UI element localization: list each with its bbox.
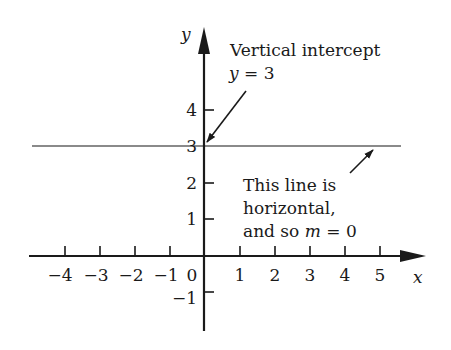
- annotation-horizontal-line2: horizontal,: [243, 198, 336, 218]
- y-tick-label: 1: [186, 209, 197, 229]
- y-axis-arrow-icon: [198, 27, 210, 54]
- x-tick-label: −1: [153, 265, 178, 285]
- y-tick-label: 3: [186, 136, 197, 156]
- y-ticks: [204, 110, 214, 292]
- x-tick-label: −4: [47, 265, 72, 285]
- x-tick-label: −2: [118, 265, 143, 285]
- x-axis-label: x: [413, 267, 423, 287]
- y-axis-label: y: [180, 24, 191, 44]
- arrow-to-intercept-icon: [207, 91, 246, 142]
- annotation-horizontal-line3: and so m = 0: [243, 221, 357, 241]
- y-tick-label: −1: [172, 288, 197, 308]
- x-tick-labels: −4 −3 −2 −1 0 1 2 3 4 5: [47, 265, 385, 285]
- y-tick-label: 2: [186, 173, 197, 193]
- x-tick-label: 3: [305, 265, 316, 285]
- x-tick-label: −3: [83, 265, 108, 285]
- annotation-vertical-intercept-line2: y = 3: [228, 63, 274, 83]
- graph: −4 −3 −2 −1 0 1 2 3 4 5 4 3 2 1 −1 y x V…: [0, 0, 451, 350]
- x-tick-label: 4: [340, 265, 351, 285]
- x-tick-label: 2: [270, 265, 281, 285]
- x-axis-arrow-icon: [400, 250, 426, 262]
- x-ticks: [65, 246, 380, 256]
- arrow-to-line-icon: [350, 150, 373, 173]
- y-tick-label: 4: [186, 100, 197, 120]
- annotation-horizontal-line1: This line is: [243, 175, 336, 195]
- x-tick-label: 0: [187, 265, 198, 285]
- annotation-vertical-intercept-line1: Vertical intercept: [229, 40, 381, 60]
- x-tick-label: 5: [375, 265, 386, 285]
- x-tick-label: 1: [235, 265, 246, 285]
